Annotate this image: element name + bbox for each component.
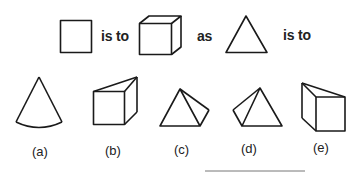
option-e-label: (e) bbox=[313, 140, 329, 155]
triangle-shape bbox=[226, 16, 267, 53]
option-d-pyramid bbox=[233, 88, 282, 126]
option-c-pyramid bbox=[160, 89, 209, 126]
option-d-label: (d) bbox=[241, 141, 257, 156]
option-b-prism bbox=[94, 77, 138, 125]
is-to-text-1: is to bbox=[101, 28, 129, 44]
is-to-text-2: is to bbox=[283, 27, 311, 43]
cube-shape bbox=[140, 16, 182, 55]
square-shape bbox=[61, 21, 92, 53]
option-b-label: (b) bbox=[105, 143, 121, 158]
option-a-cone bbox=[16, 77, 62, 128]
as-text: as bbox=[197, 28, 212, 44]
option-e-prism bbox=[302, 83, 345, 131]
option-c-label: (c) bbox=[174, 142, 189, 157]
option-a-label: (a) bbox=[32, 144, 48, 159]
